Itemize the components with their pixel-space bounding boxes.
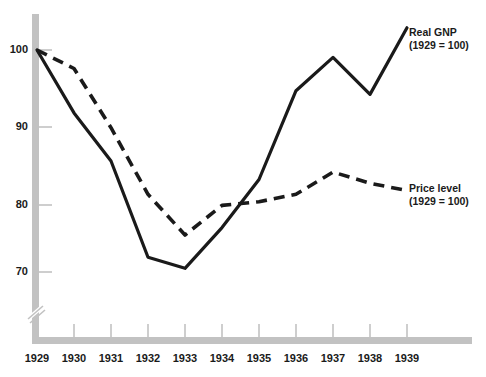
- y-axis-bar: [32, 14, 39, 344]
- x-axis-bar: [32, 337, 472, 344]
- x-axis-ticks: [74, 324, 407, 337]
- x-tick-label-1930: 1930: [55, 352, 93, 364]
- series-label-real-gnp: Real GNP (1929 = 100): [409, 26, 469, 52]
- x-tick-label-1934: 1934: [203, 352, 241, 364]
- x-tick-label-1938: 1938: [351, 352, 389, 364]
- y-axis-ticks: [39, 50, 52, 272]
- x-tick-label-1933: 1933: [166, 352, 204, 364]
- y-tick-label-70: 70: [2, 265, 28, 277]
- x-tick-label-1939: 1939: [388, 352, 426, 364]
- x-tick-label-1932: 1932: [129, 352, 167, 364]
- series-label-real-gnp-note: (1929 = 100): [409, 39, 469, 52]
- y-tick-label-90: 90: [2, 120, 28, 132]
- series-label-price-level: Price level (1929 = 100): [409, 182, 469, 208]
- x-tick-label-1929: 1929: [18, 352, 56, 364]
- series-label-real-gnp-name: Real GNP: [409, 26, 469, 39]
- y-tick-label-80: 80: [2, 198, 28, 210]
- series-label-price-level-name: Price level: [409, 182, 469, 195]
- series-label-price-level-note: (1929 = 100): [409, 195, 469, 208]
- x-tick-label-1935: 1935: [240, 352, 278, 364]
- x-tick-label-1936: 1936: [277, 352, 315, 364]
- chart-container: 100 90 80 70 1929 1930 1931 1932 1933 19…: [0, 0, 486, 377]
- y-tick-label-100: 100: [2, 43, 28, 55]
- series-line-real-gnp: [37, 28, 407, 268]
- x-tick-label-1931: 1931: [92, 352, 130, 364]
- x-tick-label-1937: 1937: [314, 352, 352, 364]
